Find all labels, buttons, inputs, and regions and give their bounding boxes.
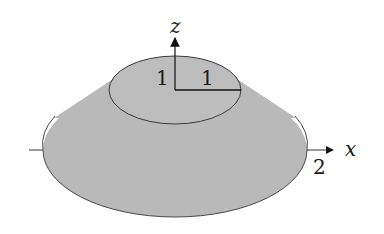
- diagram-canvas: z x 1 1 2: [0, 0, 384, 234]
- z-axis-label: z: [169, 14, 181, 38]
- top-height-label: 1: [156, 66, 169, 90]
- top-radius-label: 1: [201, 66, 214, 90]
- frustum-figure: z x 1 1 2: [0, 0, 384, 234]
- bottom-radius-label: 2: [313, 155, 326, 179]
- x-axis-label: x: [345, 137, 356, 161]
